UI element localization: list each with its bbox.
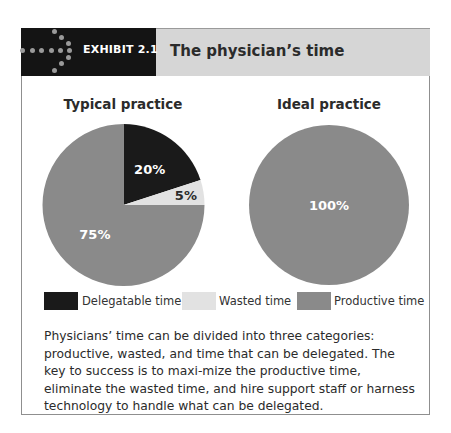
pie-0-label-delegatable-time: 20%: [134, 162, 165, 177]
legend-label-delegatable: Delegatable time: [82, 294, 181, 308]
pie-0-label-wasted-time: 5%: [175, 188, 197, 203]
legend-label-productive: Productive time: [334, 294, 424, 308]
exhibit-caption: Physicians’ time can be divided into thr…: [44, 328, 419, 416]
legend-swatch-productive: [297, 292, 331, 310]
pie-1-label-productive-time: 100%: [309, 198, 349, 213]
legend-swatch-wasted: [182, 292, 216, 310]
legend-swatch-delegatable: [44, 292, 78, 310]
legend-label-wasted: Wasted time: [219, 294, 291, 308]
pie-0-label-productive-time: 75%: [79, 227, 110, 242]
